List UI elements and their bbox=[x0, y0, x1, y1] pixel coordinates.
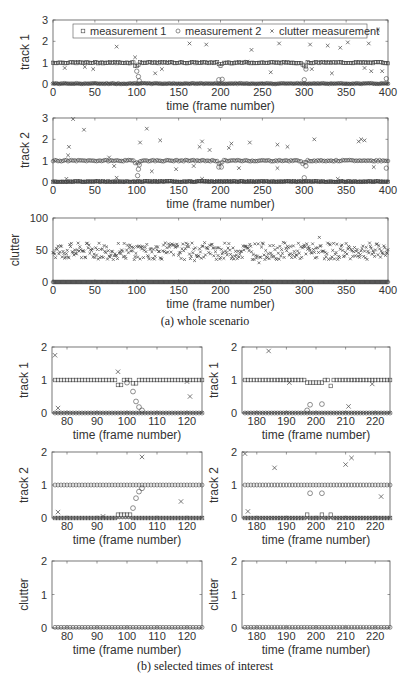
y-tick-label: 100 bbox=[30, 212, 48, 224]
x-tick-label: 350 bbox=[337, 184, 355, 196]
y-tick-label: 1 bbox=[41, 479, 47, 491]
x-tick-label: 120 bbox=[178, 520, 196, 532]
x-tick-label: 400 bbox=[379, 86, 397, 98]
x-axis-label: time (frame number) bbox=[73, 428, 182, 442]
x-tick-label: 210 bbox=[336, 520, 354, 532]
x-tick-label: 190 bbox=[277, 415, 295, 427]
x-axis-label: time (frame number) bbox=[166, 197, 275, 211]
x-axis-label: time (frame number) bbox=[73, 533, 182, 547]
axes-b5: 8090100110120012time (frame number)clutt… bbox=[17, 555, 204, 657]
y-tick-label: 50 bbox=[36, 244, 48, 256]
y-tick-label: 0 bbox=[41, 622, 47, 634]
x-tick-label: 250 bbox=[253, 184, 271, 196]
figure: 0501001502002503003504000123time (frame … bbox=[0, 0, 410, 689]
x-tick-label: 180 bbox=[248, 415, 266, 427]
caption-selected-times: (b) selected times of interest bbox=[137, 659, 274, 673]
y-tick-label: 0 bbox=[231, 512, 237, 524]
axes-b6: 180190200210220012time (frame number)clu… bbox=[207, 555, 392, 657]
legend-measurement-2: measurement 2 bbox=[185, 25, 261, 37]
x-tick-label: 110 bbox=[148, 520, 166, 532]
x-tick-label: 200 bbox=[211, 184, 229, 196]
x-tick-label: 190 bbox=[277, 630, 295, 642]
y-tick-label: 0 bbox=[42, 176, 48, 188]
x-tick-label: 90 bbox=[91, 520, 103, 532]
x-tick-label: 150 bbox=[169, 184, 187, 196]
x-tick-label: 100 bbox=[118, 415, 136, 427]
x-tick-label: 210 bbox=[336, 415, 354, 427]
y-tick-label: 1 bbox=[41, 374, 47, 386]
axes-a3: 050100150200250300350400050100time (fram… bbox=[8, 212, 397, 311]
x-tick-label: 90 bbox=[91, 630, 103, 642]
y-tick-label: 0 bbox=[41, 512, 47, 524]
y-tick-label: 1 bbox=[42, 155, 48, 167]
y-tick-label: 1 bbox=[41, 589, 47, 601]
legend: measurement 1measurement 2clutter measur… bbox=[73, 24, 379, 38]
y-axis-label: clutter bbox=[17, 578, 31, 611]
axes-b1: 8090100110120012time (frame number)track… bbox=[17, 341, 204, 442]
x-tick-label: 300 bbox=[295, 86, 313, 98]
plot-area bbox=[53, 118, 388, 182]
x-tick-label: 50 bbox=[89, 184, 101, 196]
x-tick-label: 150 bbox=[169, 284, 187, 296]
x-tick-label: 100 bbox=[128, 86, 146, 98]
x-tick-label: 100 bbox=[118, 520, 136, 532]
x-tick-label: 350 bbox=[337, 86, 355, 98]
x-tick-label: 400 bbox=[379, 284, 397, 296]
x-tick-label: 180 bbox=[248, 520, 266, 532]
y-axis-label: track 1 bbox=[17, 362, 31, 398]
x-tick-label: 100 bbox=[118, 630, 136, 642]
x-tick-label: 200 bbox=[307, 415, 325, 427]
y-tick-label: 1 bbox=[42, 57, 48, 69]
x-tick-label: 100 bbox=[128, 184, 146, 196]
x-axis-label: time (frame number) bbox=[166, 99, 275, 113]
x-tick-label: 100 bbox=[128, 284, 146, 296]
y-axis-label: track 2 bbox=[207, 467, 221, 503]
x-tick-label: 400 bbox=[379, 184, 397, 196]
x-axis-label: time (frame number) bbox=[73, 643, 182, 657]
caption-whole-scenario: (a) whole scenario bbox=[161, 314, 250, 328]
x-tick-label: 180 bbox=[248, 630, 266, 642]
y-tick-label: 0 bbox=[231, 407, 237, 419]
plot-area bbox=[242, 347, 390, 413]
y-axis-label: track 2 bbox=[18, 132, 32, 168]
axes-a2: 0501001502002503003504000123time (frame … bbox=[18, 112, 397, 211]
y-tick-label: 0 bbox=[42, 276, 48, 288]
x-tick-label: 210 bbox=[336, 630, 354, 642]
plot-area bbox=[52, 561, 202, 628]
y-tick-label: 1 bbox=[231, 479, 237, 491]
y-tick-label: 2 bbox=[41, 555, 47, 567]
x-tick-label: 80 bbox=[61, 630, 73, 642]
x-tick-label: 200 bbox=[307, 520, 325, 532]
x-tick-label: 300 bbox=[295, 284, 313, 296]
x-tick-label: 120 bbox=[178, 630, 196, 642]
x-tick-label: 120 bbox=[178, 415, 196, 427]
x-tick-label: 350 bbox=[337, 284, 355, 296]
x-tick-label: 50 bbox=[89, 284, 101, 296]
plot-area bbox=[242, 561, 390, 628]
axes-a1: 0501001502002503003504000123time (frame … bbox=[18, 14, 397, 113]
plot-area bbox=[52, 452, 202, 518]
y-axis-label: track 1 bbox=[18, 34, 32, 70]
y-tick-label: 3 bbox=[42, 112, 48, 124]
y-tick-label: 3 bbox=[42, 14, 48, 26]
axes-b3: 8090100110120012time (frame number)track… bbox=[17, 446, 204, 547]
x-tick-label: 0 bbox=[50, 284, 56, 296]
x-tick-label: 90 bbox=[91, 415, 103, 427]
x-tick-label: 200 bbox=[211, 86, 229, 98]
x-tick-label: 110 bbox=[148, 630, 166, 642]
y-tick-label: 1 bbox=[231, 374, 237, 386]
x-tick-label: 110 bbox=[148, 415, 166, 427]
x-tick-label: 80 bbox=[61, 415, 73, 427]
y-axis-label: clutter bbox=[207, 578, 221, 611]
x-tick-label: 220 bbox=[366, 520, 384, 532]
x-tick-label: 250 bbox=[253, 86, 271, 98]
axes-b4: 180190200210220012time (frame number)tra… bbox=[207, 446, 392, 547]
x-tick-label: 220 bbox=[366, 415, 384, 427]
x-axis-label: time (frame number) bbox=[166, 297, 275, 311]
y-tick-label: 2 bbox=[231, 555, 237, 567]
x-tick-label: 250 bbox=[253, 284, 271, 296]
x-tick-label: 200 bbox=[211, 284, 229, 296]
y-tick-label: 2 bbox=[41, 341, 47, 353]
plot-area bbox=[242, 452, 390, 518]
x-tick-label: 0 bbox=[50, 184, 56, 196]
